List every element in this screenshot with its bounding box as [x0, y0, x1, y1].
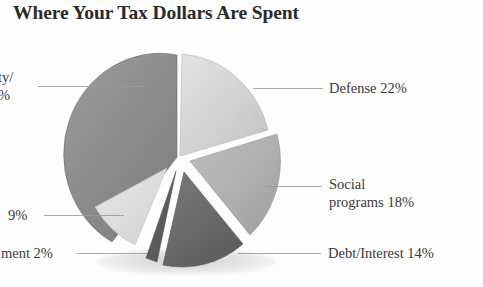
leader-line-social-security: [38, 86, 146, 87]
leader-line-social-programs: [265, 186, 322, 187]
leader-line-defense: [253, 88, 323, 89]
slice-label-government: ment 2%: [1, 245, 53, 263]
slice-label-other: 9%: [8, 207, 27, 225]
slice-label-social-security-line1: ty/: [0, 69, 13, 85]
slice-label-debt-interest: Debt/Interest 14%: [328, 245, 434, 263]
slice-label-social-security: ty/ %: [0, 69, 32, 104]
slice-label-defense: Defense 22%: [329, 80, 407, 98]
pie-chart: [0, 0, 483, 287]
leader-line-government: [77, 253, 147, 254]
slice-label-social-programs-line1: Social: [329, 176, 365, 192]
slice-label-social-programs: Social programs 18%: [329, 176, 479, 211]
tax-dollars-pie-figure: Where Your Tax Dollars Are Spent: [0, 0, 483, 287]
leader-line-other: [44, 215, 124, 216]
slice-label-social-programs-line2: programs 18%: [329, 194, 414, 210]
pie-chart-svg: [0, 0, 483, 287]
leader-line-debt-interest: [238, 253, 321, 254]
slice-label-social-security-line2: %: [0, 87, 10, 103]
